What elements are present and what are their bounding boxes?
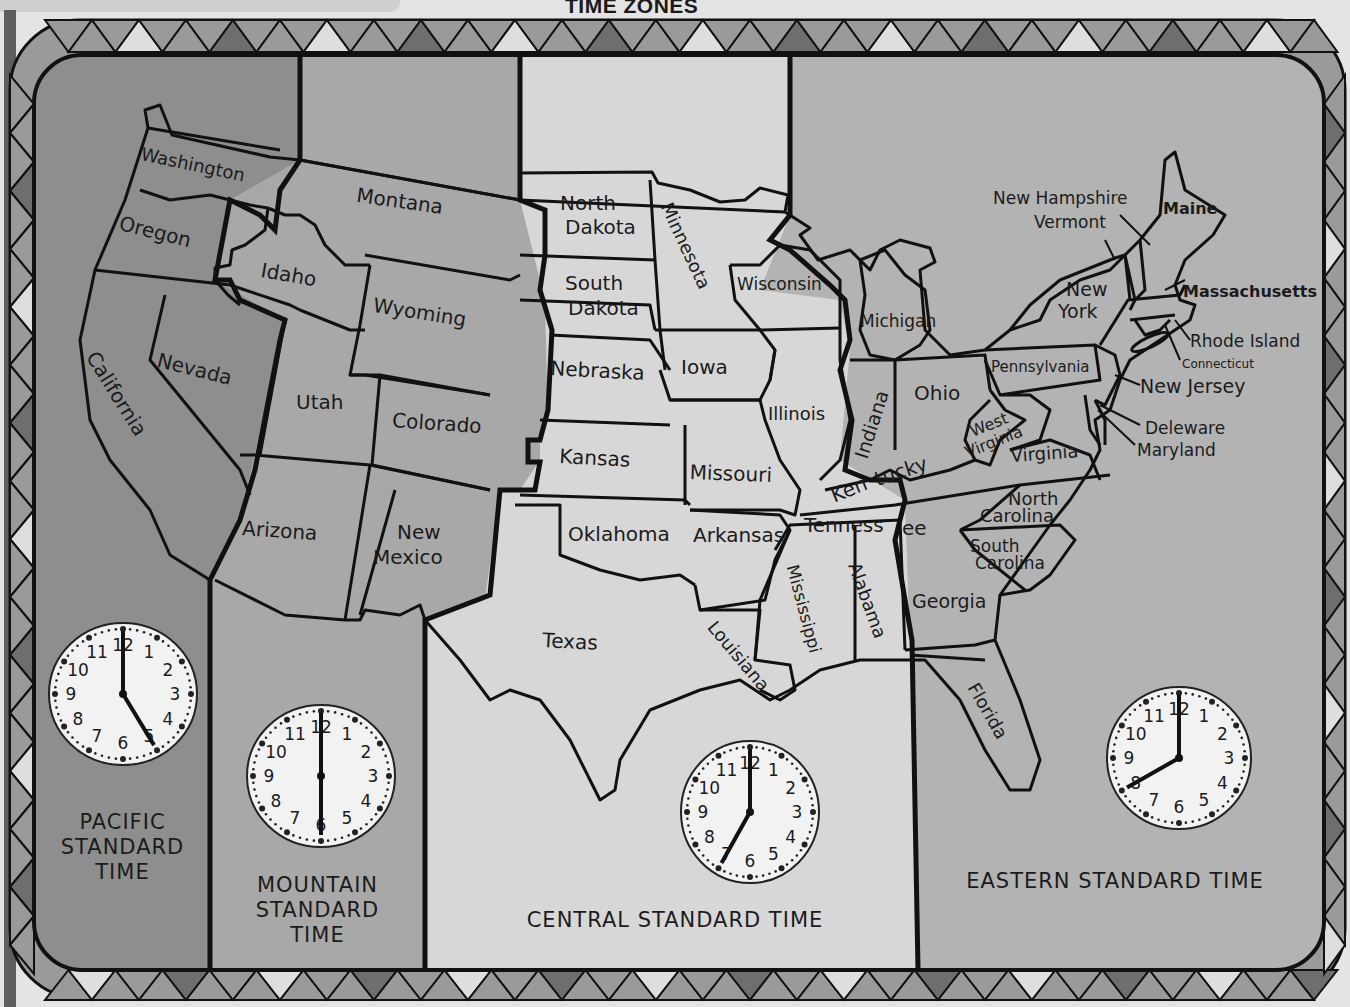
clock-numeral: 7: [1149, 790, 1160, 810]
clock-numeral: 1: [1199, 706, 1210, 726]
state-label-illinois: Illinois: [768, 405, 825, 423]
state-label-maryland: Maryland: [1137, 442, 1216, 459]
zone-label-eastern-line1: EASTERN STANDARD TIME: [925, 869, 1305, 894]
state-label-texas: Texas: [542, 630, 598, 653]
state-label-new-hampshire: New Hampshire: [993, 190, 1127, 207]
state-label-delaware: Deleware: [1145, 420, 1225, 437]
zone-panels: [34, 55, 1324, 970]
state-label-iowa: Iowa: [681, 357, 728, 377]
clock-numeral: 3: [368, 766, 379, 786]
clock-pacific: 121234567891011: [49, 623, 197, 765]
clock-numeral: 4: [163, 709, 174, 729]
state-label-vermont: Vermont: [1034, 214, 1106, 231]
state-label-colorado: Colorado: [392, 410, 483, 436]
clock-numeral: 8: [271, 791, 282, 811]
state-label-new-york-line2: York: [1058, 302, 1098, 321]
clock-numeral: 2: [163, 660, 174, 680]
zone-label-pacific-line3: TIME: [40, 860, 205, 885]
clock-numeral: 6: [1174, 797, 1185, 817]
state-label-arkansas: Arkansas: [693, 525, 784, 545]
state-label-utah: Utah: [296, 392, 343, 412]
zone-label-mountain-line1: MOUNTAIN: [215, 873, 420, 898]
clock-numeral: 11: [716, 760, 738, 780]
state-label-new-jersey: New Jersey: [1140, 377, 1245, 396]
state-label-rhode-island: Rhode Island: [1190, 333, 1300, 350]
state-label-ohio: Ohio: [914, 383, 960, 403]
zone-label-pacific: PACIFIC STANDARD TIME: [40, 810, 205, 886]
zone-label-mountain: MOUNTAIN STANDARD TIME: [215, 873, 420, 949]
state-label-arizona: Arizona: [242, 518, 318, 543]
zone-label-mountain-line3: TIME: [215, 923, 420, 948]
clock-numeral: 11: [86, 642, 108, 662]
state-label-tennessee-part1: Tenness: [804, 515, 884, 535]
state-label-massachusetts: Massachusetts: [1183, 284, 1317, 300]
clock-numeral: 11: [284, 724, 306, 744]
clock-numeral: 4: [361, 791, 372, 811]
state-label-north-dakota-line1: North: [560, 193, 616, 213]
clock-numeral: 2: [785, 778, 796, 798]
clock-numeral: 4: [785, 827, 796, 847]
state-label-oklahoma: Oklahoma: [568, 524, 670, 544]
state-label-nebraska: Nebraska: [550, 358, 645, 383]
state-label-new-mexico-line2: Mexico: [373, 547, 443, 567]
clock-numeral: 9: [1124, 748, 1135, 768]
clock-numeral: 3: [1224, 748, 1235, 768]
clock-numeral: 7: [92, 726, 103, 746]
zone-label-central: CENTRAL STANDARD TIME: [430, 908, 920, 933]
clock-numeral: 6: [118, 733, 129, 753]
state-label-michigan: Michigan: [860, 313, 936, 330]
clock-numeral: 8: [73, 709, 84, 729]
clock-numeral: 5: [768, 844, 779, 864]
clock-central: 121234567891011: [681, 741, 819, 883]
state-label-pennsylvania: Pennsylvania: [991, 360, 1090, 375]
state-label-connecticut: Connecticut: [1182, 358, 1254, 370]
state-label-wisconsin: Wisconsin: [737, 276, 822, 293]
state-label-tennessee-part2: ee: [902, 518, 927, 538]
state-label-georgia: Georgia: [912, 592, 987, 611]
clock-numeral: 11: [1143, 706, 1165, 726]
state-label-maine: Maine: [1163, 201, 1217, 217]
zone-label-eastern: EASTERN STANDARD TIME: [925, 869, 1305, 894]
clock-numeral: 10: [265, 742, 287, 762]
clock-numeral: 3: [792, 802, 803, 822]
clock-numeral: 2: [361, 742, 372, 762]
clock-eastern: 121234567891011: [1107, 687, 1251, 829]
clock-numeral: 8: [704, 827, 715, 847]
zone-label-central-line1: CENTRAL STANDARD TIME: [430, 908, 920, 933]
clock-numeral: 3: [170, 684, 181, 704]
clock-numeral: 7: [290, 808, 301, 828]
state-label-south-dakota-line1: South: [565, 273, 623, 293]
clock-numeral: 1: [768, 760, 779, 780]
state-label-new-york-line1: New: [1066, 280, 1107, 299]
clock-numeral: 6: [745, 851, 756, 871]
clock-numeral: 2: [1217, 724, 1228, 744]
zone-label-pacific-line2: STANDARD: [40, 835, 205, 860]
clock-numeral: 4: [1217, 773, 1228, 793]
state-label-south-dakota-line2: Dakota: [568, 298, 639, 318]
clock-numeral: 5: [1199, 790, 1210, 810]
state-label-missouri: Missouri: [689, 462, 772, 485]
clock-numeral: 9: [66, 684, 77, 704]
clock-numeral: 10: [698, 778, 720, 798]
clock-numeral: 9: [698, 802, 709, 822]
state-label-new-mexico-line1: New: [397, 522, 441, 542]
state-label-north-dakota-line2: Dakota: [565, 217, 636, 237]
state-label-kansas: Kansas: [559, 446, 631, 470]
clock-numeral: 5: [342, 808, 353, 828]
clock-numeral: 1: [144, 642, 155, 662]
clock-mountain: 121234567891011: [247, 705, 395, 847]
state-label-north-carolina-line2: Carolina: [980, 507, 1054, 525]
clock-numeral: 10: [67, 660, 89, 680]
state-label-virginia: Virginia: [1010, 442, 1079, 465]
clock-numeral: 10: [1125, 724, 1147, 744]
clock-numeral: 1: [342, 724, 353, 744]
zone-label-mountain-line2: STANDARD: [215, 898, 420, 923]
zone-label-pacific-line1: PACIFIC: [40, 810, 205, 835]
state-label-south-carolina-line2: Carolina: [975, 555, 1045, 572]
clock-numeral: 9: [264, 766, 275, 786]
